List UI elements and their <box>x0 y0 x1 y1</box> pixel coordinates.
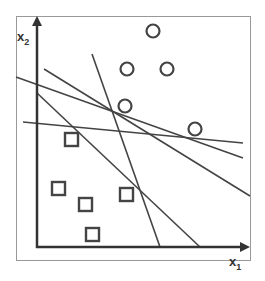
circle-point <box>147 25 160 38</box>
circle-point <box>189 123 202 136</box>
x-axis-label: x1 <box>229 254 241 272</box>
circle-point <box>121 63 134 76</box>
frame <box>17 17 251 261</box>
separating-line <box>16 77 243 158</box>
square-point <box>65 133 78 146</box>
diagram-canvas <box>0 0 265 281</box>
y-axis-label: x2 <box>17 29 29 47</box>
y-axis-arrow-icon <box>32 16 42 26</box>
square-point <box>120 188 133 201</box>
circle-point <box>119 100 132 113</box>
circle-point <box>161 63 174 76</box>
class-squares <box>52 133 133 241</box>
square-point <box>79 198 92 211</box>
square-point <box>52 182 65 195</box>
separating-line <box>92 54 160 247</box>
separating-line <box>23 122 243 143</box>
separating-line <box>37 93 200 247</box>
square-point <box>86 228 99 241</box>
separating-lines <box>16 54 250 247</box>
x-axis-arrow-icon <box>240 242 250 252</box>
